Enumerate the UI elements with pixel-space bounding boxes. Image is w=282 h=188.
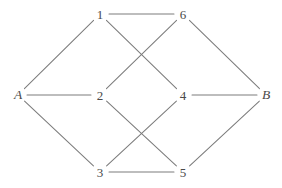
graph-edge-6-B xyxy=(189,20,259,88)
graph-edge-A-3 xyxy=(25,101,94,166)
graph-node-6: 6 xyxy=(178,7,189,22)
graph-node-B: B xyxy=(260,87,272,103)
graph-diagram: A1624B35 xyxy=(0,0,282,188)
graph-node-2: 2 xyxy=(95,88,106,103)
graph-node-5: 5 xyxy=(178,165,189,180)
graph-node-1: 1 xyxy=(95,7,106,22)
graph-node-3: 3 xyxy=(95,165,106,180)
graph-node-A: A xyxy=(12,87,24,103)
graph-node-4: 4 xyxy=(178,88,189,103)
graph-edge-A-1 xyxy=(24,20,93,88)
graph-edges-canvas xyxy=(0,0,282,188)
graph-edge-5-B xyxy=(190,101,260,166)
